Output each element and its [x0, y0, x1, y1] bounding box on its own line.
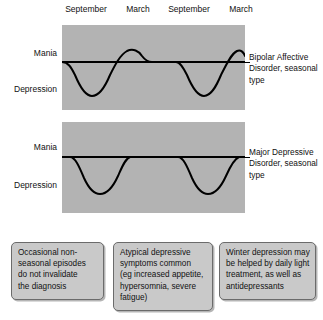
major-depressive-curve-svg	[62, 122, 245, 213]
note-atypical-symptoms: Atypical depressive symptoms common (eg …	[113, 242, 213, 311]
panel-major-depressive-plot	[62, 122, 245, 213]
note2-line-5: fatigue)	[120, 292, 207, 303]
seasonal-mood-figure: September March September March Mania De…	[0, 0, 323, 320]
note3-line-1: Winter depression may	[226, 247, 310, 258]
note1-line-3: do not invalidate	[18, 269, 98, 280]
note-light-treatment: Winter depression may be helped by daily…	[219, 242, 316, 300]
panel1-caption-line-2: Disorder, seasonal	[249, 63, 323, 74]
panel2-mania-label: Mania	[0, 142, 57, 153]
note2-line-1: Atypical depressive	[120, 247, 207, 258]
note3-line-3: treatment, as well as	[226, 269, 310, 280]
panel1-mania-label: Mania	[0, 48, 57, 59]
panel2-caption-major-depressive: Major Depressive Disorder, seasonal type	[249, 147, 323, 181]
note2-line-3: (eg increased appetite,	[120, 269, 207, 280]
major-depressive-mood-curve	[62, 157, 245, 194]
panel1-caption-line-1: Bipolar Affective	[249, 52, 323, 63]
month-label-march-1: March	[119, 4, 157, 15]
note3-line-2: be helped by daily light	[226, 258, 310, 269]
panel1-depression-label: Depression	[0, 84, 57, 95]
panel1-caption-line-3: type	[249, 75, 323, 86]
note-non-seasonal-episodes: Occasional non- seasonal episodes do not…	[11, 242, 104, 300]
panel2-depression-label: Depression	[0, 180, 57, 191]
panel2-caption-line-1: Major Depressive	[249, 147, 323, 158]
note1-line-2: seasonal episodes	[18, 258, 98, 269]
panel1-caption-bipolar: Bipolar Affective Disorder, seasonal typ…	[249, 52, 323, 86]
note1-line-4: the diagnosis	[18, 281, 98, 292]
note1-line-1: Occasional non-	[18, 247, 98, 258]
panel2-caption-line-2: Disorder, seasonal	[249, 158, 323, 169]
note3-line-4: antidepressants	[226, 281, 310, 292]
month-label-september-1: September	[58, 4, 114, 15]
month-label-march-2: March	[222, 4, 260, 15]
panel-bipolar-plot	[62, 25, 245, 110]
bipolar-curve-svg	[62, 25, 245, 110]
notes-row: Occasional non- seasonal episodes do not…	[0, 240, 323, 320]
note2-line-2: symptoms common	[120, 258, 207, 269]
bipolar-mood-curve	[62, 50, 245, 96]
month-label-september-2: September	[161, 4, 217, 15]
note2-line-4: hypersomnia, severe	[120, 281, 207, 292]
panel2-caption-line-3: type	[249, 170, 323, 181]
